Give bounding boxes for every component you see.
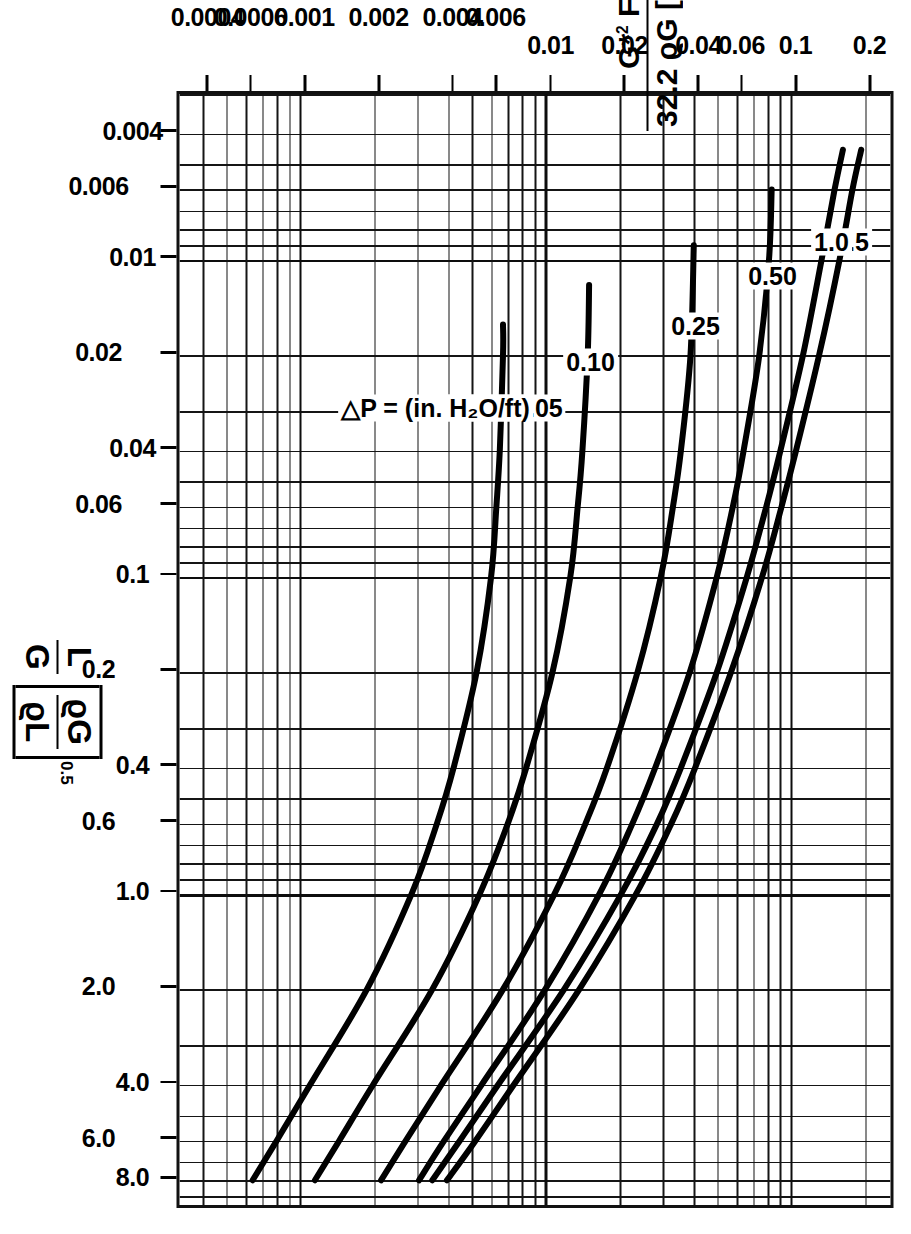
x-tick-label: 2.0 [81, 972, 114, 1001]
x-tick-mark [160, 573, 176, 576]
rotated-figure-wrapper: 0.0040.0060.010.020.040.060.10.20.40.61.… [0, 0, 911, 1234]
y-title-open-bracket: [ [649, 0, 682, 10]
y-title-fraction: G*2 F ν0.1 32.2 ϱG [ϱL−ϱG] [611, 0, 683, 131]
annotation-dp-units: △P = (in. H₂O/ft) [337, 395, 532, 422]
x-tick-mark [160, 446, 176, 449]
y-title-square: 2 [613, 25, 630, 34]
curve-label-0p50: 0.50 [745, 263, 800, 290]
x-title-rho-fraction: ϱG ϱL [17, 695, 97, 749]
x-title-rho-l: ϱL [17, 695, 56, 749]
x-tick-label: 0.02 [75, 338, 122, 367]
curve-label-0p25: 0.25 [668, 312, 723, 339]
y-tick-mark [249, 75, 252, 91]
y-tick-mark [696, 75, 699, 91]
x-tick-mark [160, 763, 176, 766]
x-tick-mark [160, 185, 176, 188]
y-title-star: * [611, 34, 644, 46]
y-tick-mark [868, 75, 871, 91]
y-title-numerator: G*2 F ν0.1 [611, 0, 648, 131]
plot-area [176, 91, 893, 1208]
x-tick-label: 0.004 [102, 116, 162, 145]
y-tick-label: 0.004 [422, 3, 482, 32]
curve-1p5 [446, 150, 860, 1181]
x-title-G: G [17, 640, 56, 674]
x-tick-mark [160, 255, 176, 258]
x-tick-label: 0.006 [68, 172, 128, 201]
y-title-denominator: 32.2 ϱG [ϱL−ϱG] [648, 0, 683, 131]
y-tick-mark [549, 75, 552, 91]
y-tick-mark [794, 75, 797, 91]
x-title-L: L [56, 640, 97, 674]
y-tick-mark [740, 75, 743, 91]
x-tick-mark [160, 1136, 176, 1139]
x-tick-mark [160, 819, 176, 822]
x-title-exponent: 0.5 [56, 761, 76, 785]
y-tick-label: 0.01 [527, 31, 574, 60]
x-tick-mark [160, 985, 176, 988]
x-axis-title: L G ϱG ϱL 0.5 [15, 640, 99, 785]
x-tick-label: 0.04 [109, 433, 156, 462]
x-tick-mark [160, 502, 176, 505]
y-axis-title: G*2 F ν0.1 32.2 ϱG [ϱL−ϱG] [611, 0, 683, 131]
y-tick-label: 0.002 [348, 3, 408, 32]
y-title-rho-g: ϱG [649, 18, 682, 60]
x-tick-mark [160, 1081, 176, 1084]
y-tick-label: 0.2 [853, 31, 886, 60]
x-tick-label: 6.0 [81, 1123, 114, 1152]
x-title-rho-g: ϱG [56, 695, 97, 749]
x-title-LG-fraction: L G [17, 640, 97, 674]
x-tick-label: 0.6 [81, 806, 114, 835]
y-title-G: G [611, 46, 644, 69]
x-tick-label: 0.01 [109, 242, 156, 271]
x-tick-label: 0.06 [75, 489, 122, 518]
y-tick-label: 0.0004 [170, 3, 243, 32]
curve-0p25 [381, 245, 694, 1180]
x-tick-mark [160, 1176, 176, 1179]
x-tick-label: 0.4 [115, 750, 148, 779]
y-tick-label: 0.06 [718, 31, 765, 60]
y-tick-mark [303, 75, 306, 91]
y-title-F: F [611, 0, 644, 17]
y-tick-mark [205, 75, 208, 91]
curve-label-0p10: 0.10 [563, 349, 618, 376]
x-tick-mark [160, 890, 176, 893]
x-tick-mark [160, 351, 176, 354]
x-tick-label: 8.0 [115, 1163, 148, 1192]
x-tick-label: 4.0 [115, 1067, 148, 1096]
x-tick-mark [160, 668, 176, 671]
x-tick-label: 1.0 [115, 876, 148, 905]
curve-label-1p0: 1.0 [811, 229, 852, 256]
x-title-bracket: ϱG ϱL [15, 685, 99, 759]
y-tick-mark [451, 75, 454, 91]
x-tick-label: 0.1 [115, 559, 148, 588]
y-tick-mark [377, 75, 380, 91]
chart: 0.0040.0060.010.020.040.060.10.20.40.61.… [0, 0, 911, 1234]
y-tick-mark [494, 75, 497, 91]
figure-page: 0.0040.0060.010.020.040.060.10.20.40.61.… [0, 0, 911, 1234]
y-title-const: 32.2 [649, 69, 682, 127]
y-tick-label: 0.1 [779, 31, 812, 60]
